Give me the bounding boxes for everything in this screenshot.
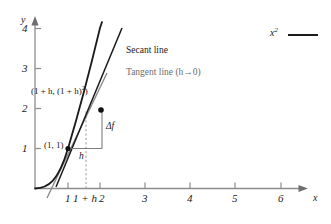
y-tick-label-4: 4 (22, 23, 28, 34)
y-tick-label-3: 3 (22, 63, 28, 74)
x-tick-label-2: 2 (99, 193, 105, 204)
point-1-1-marker (65, 146, 70, 151)
y-tick-label-2: 2 (22, 103, 28, 114)
delta-f-label: Δf (106, 122, 114, 132)
legend-label-x-squared: x2 (270, 27, 278, 38)
point-1-1-label: (1, 1) (44, 141, 64, 150)
axis-group (31, 16, 308, 192)
x-tick-label-1-plus-h: 1 + h (73, 193, 97, 204)
x-tick-label-4: 4 (187, 193, 193, 204)
derivative-secant-tangent-figure: y x 4 3 2 1 1 1 + h 2 3 4 5 6 Secant lin… (0, 0, 331, 224)
y-axis-arrowhead (31, 16, 38, 26)
point-b-text-post: ) (85, 86, 88, 96)
x-tick-label-3: 3 (142, 193, 148, 204)
tangent-line-label: Tangent line (h→0) (126, 68, 201, 78)
y-tick-label-1: 1 (22, 143, 28, 154)
delta-f-text: Δf (106, 121, 114, 131)
point-1-plus-h-marker (98, 107, 104, 113)
x-tick-label-1: 1 (65, 193, 71, 204)
x-axis-label: x (313, 193, 317, 203)
x-axis-arrowhead (299, 185, 309, 192)
legend-exponent: 2 (274, 26, 278, 34)
x-tick-label-5: 5 (232, 193, 238, 204)
x-tick-marks (68, 183, 281, 189)
x-tick-label-6: 6 (278, 193, 284, 204)
secant-line (56, 28, 122, 187)
secant-line-label: Secant line (126, 46, 168, 56)
plot-canvas (0, 0, 331, 224)
point-b-text-pre: (1 + h, (1 + h) (31, 86, 82, 96)
point-1-plus-h-label: (1 + h, (1 + h)2) (31, 85, 88, 96)
h-run-label: h (79, 152, 84, 162)
